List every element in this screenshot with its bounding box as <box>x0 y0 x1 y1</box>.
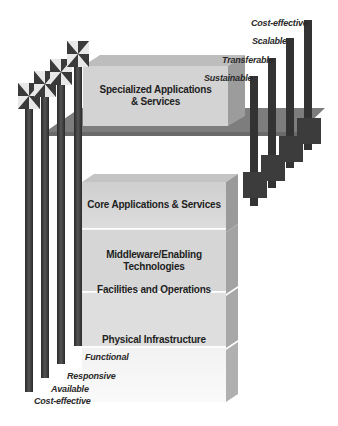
middleware-block-label-line1: Middleware/Enabling <box>82 249 226 261</box>
top-block-label: Specialized Applications & Services <box>83 84 228 108</box>
physical-block-label-line1: Physical Infrastructure <box>82 334 226 346</box>
left-pillar-functional <box>74 60 82 346</box>
left-pillar-available <box>41 88 49 378</box>
left-label-cost-effective: Cost-effective <box>34 396 91 406</box>
top-block-label-line1: Specialized Applications <box>83 84 228 96</box>
left-label-functional: Functional <box>85 352 129 362</box>
facilities-block-label-line1: Facilities and Operations <box>82 284 226 296</box>
right-label-scalable: Scalable <box>252 36 287 46</box>
left-pillar-cost-effective <box>25 100 33 392</box>
left-pillar-responsive <box>57 76 65 364</box>
left-label-available: Available <box>51 384 89 394</box>
middleware-block-label-line2: Technologies <box>82 261 226 273</box>
right-label-sustainable: Sustainable <box>204 73 252 83</box>
middleware-block-label: Middleware/Enabling Technologies <box>82 249 226 273</box>
facilities-block-label: Facilities and Operations <box>82 284 226 296</box>
top-block-label-line2: & Services <box>83 96 228 108</box>
right-label-cost-effective: Cost-effective <box>251 18 308 28</box>
core-block-label: Core Applications & Services <box>82 199 226 211</box>
left-label-responsive: Responsive <box>67 371 116 381</box>
diagram-graphics <box>0 0 338 426</box>
left-pillars <box>25 60 82 392</box>
right-label-transferable: Transferable <box>222 55 273 65</box>
pinwheel-icon <box>67 41 89 67</box>
physical-block-label: Physical Infrastructure <box>82 334 226 346</box>
core-block-label-line1: Core Applications & Services <box>82 199 226 211</box>
